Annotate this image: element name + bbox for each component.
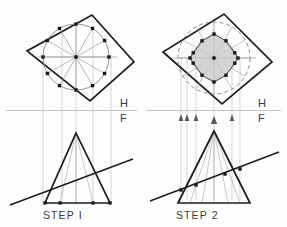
- division-point: [236, 56, 239, 59]
- step-label-1: STEP I: [43, 209, 83, 221]
- cut-point: [179, 188, 182, 191]
- division-point: [212, 32, 215, 35]
- division-point: [103, 39, 106, 42]
- base-point: [43, 201, 46, 204]
- division-point: [192, 62, 195, 65]
- center-point: [74, 55, 78, 59]
- fold-label-f-step2: F: [258, 112, 265, 124]
- division-point: [74, 88, 77, 91]
- center-point: [212, 56, 216, 60]
- step-label-2: STEP 2: [176, 209, 219, 221]
- cut-point: [194, 183, 197, 186]
- division-point: [200, 74, 203, 77]
- division-point: [41, 55, 44, 58]
- cut-point: [223, 172, 226, 175]
- division-point: [233, 51, 236, 54]
- division-point: [58, 27, 61, 30]
- division-point: [224, 39, 227, 42]
- division-point: [74, 22, 77, 25]
- division-point: [212, 80, 215, 83]
- fold-label-h-step1: H: [120, 97, 128, 109]
- division-point: [200, 39, 203, 42]
- division-point: [46, 72, 49, 75]
- base-point: [108, 201, 111, 204]
- division-point: [91, 27, 94, 30]
- division-point: [103, 72, 106, 75]
- division-point: [188, 56, 191, 59]
- division-point: [224, 74, 227, 77]
- division-point: [91, 84, 94, 87]
- cut-point: [238, 167, 241, 170]
- base-point: [91, 201, 94, 204]
- base-point: [58, 201, 61, 204]
- division-point: [107, 55, 110, 58]
- technical-drawing-canvas: H F STEP I: [0, 0, 287, 227]
- division-point: [233, 62, 236, 65]
- fold-label-f-step1: F: [120, 112, 127, 124]
- division-point: [58, 84, 61, 87]
- fold-label-h-step2: H: [258, 97, 266, 109]
- division-point: [46, 39, 49, 42]
- division-point: [192, 51, 195, 54]
